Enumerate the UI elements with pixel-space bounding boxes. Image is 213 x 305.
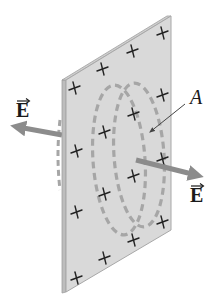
charged-plate: [62, 16, 171, 293]
label-area: A: [188, 86, 203, 108]
gaussian-surface-left-cap: [58, 120, 60, 190]
field-arrow-left: [18, 127, 62, 135]
charged-plane-diagram: E E A: [0, 0, 213, 305]
label-field-left: E: [16, 99, 30, 122]
label-field-right: E: [190, 184, 204, 207]
